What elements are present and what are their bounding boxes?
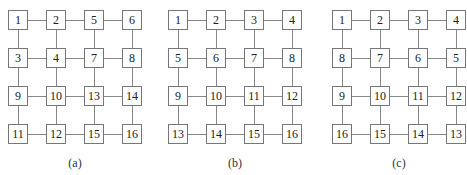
mesh-node: 4	[446, 10, 466, 30]
mesh-node: 11	[408, 86, 428, 106]
mesh-node: 1	[168, 10, 188, 30]
mesh-node: 9	[168, 86, 188, 106]
mesh-node: 7	[370, 48, 390, 68]
mesh-node: 15	[370, 124, 390, 144]
mesh-node: 10	[370, 86, 390, 106]
mesh-node: 6	[206, 48, 226, 68]
vertical-link	[216, 20, 217, 134]
mesh-node: 7	[244, 48, 264, 68]
mesh-node: 14	[206, 124, 226, 144]
horizontal-link	[178, 20, 292, 21]
horizontal-link	[178, 134, 292, 135]
mesh-node: 16	[282, 124, 302, 144]
vertical-link	[456, 20, 457, 134]
mesh-node: 8	[282, 48, 302, 68]
horizontal-link	[342, 58, 456, 59]
mesh-node: 6	[408, 48, 428, 68]
mesh-node: 11	[244, 86, 264, 106]
panel-caption: (b)	[160, 156, 310, 171]
mesh-panel-c: 12348765910111216151413(c)	[0, 0, 150, 175]
horizontal-link	[342, 96, 456, 97]
vertical-link	[178, 20, 179, 134]
horizontal-link	[342, 134, 456, 135]
horizontal-link	[342, 20, 456, 21]
horizontal-link	[178, 58, 292, 59]
vertical-link	[292, 20, 293, 134]
mesh-node: 13	[446, 124, 466, 144]
mesh-node: 12	[446, 86, 466, 106]
vertical-link	[342, 20, 343, 134]
mesh-node: 5	[446, 48, 466, 68]
vertical-link	[254, 20, 255, 134]
mesh-node: 2	[206, 10, 226, 30]
vertical-link	[418, 20, 419, 134]
mesh-node: 15	[244, 124, 264, 144]
vertical-link	[380, 20, 381, 134]
mesh-node: 12	[282, 86, 302, 106]
mesh-node: 3	[244, 10, 264, 30]
mesh-node: 4	[282, 10, 302, 30]
mesh-node: 14	[408, 124, 428, 144]
panel-caption: (c)	[324, 156, 467, 171]
mesh-node: 3	[408, 10, 428, 30]
mesh-node: 5	[168, 48, 188, 68]
mesh-node: 8	[332, 48, 352, 68]
mesh-node: 9	[332, 86, 352, 106]
horizontal-link	[178, 96, 292, 97]
mesh-node: 1	[332, 10, 352, 30]
mesh-node: 10	[206, 86, 226, 106]
mesh-node: 16	[332, 124, 352, 144]
mesh-node: 13	[168, 124, 188, 144]
mesh-node: 2	[370, 10, 390, 30]
